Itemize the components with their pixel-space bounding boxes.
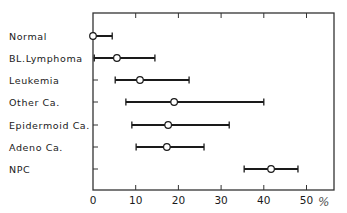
- x-tick-label: 50: [300, 194, 313, 206]
- mean-marker: [171, 99, 178, 106]
- x-tick-label: 40: [257, 194, 270, 206]
- x-tick-label: 20: [172, 194, 185, 206]
- category-label: Epidermoid Ca.: [9, 120, 90, 131]
- data-row: BL.Lymphoma: [9, 53, 155, 64]
- mean-marker: [114, 55, 121, 62]
- data-row: Epidermoid Ca.: [9, 120, 229, 131]
- x-tick-label: 30: [214, 194, 227, 206]
- x-tick-label: 10: [129, 194, 142, 206]
- data-row: Adeno Ca.: [9, 142, 204, 153]
- mean-marker: [90, 33, 97, 40]
- mean-marker: [164, 144, 171, 151]
- mean-marker: [268, 166, 275, 173]
- category-label: Other Ca.: [9, 97, 60, 108]
- data-row: NPC: [9, 164, 298, 175]
- category-label: Leukemia: [9, 75, 60, 86]
- chart: 01020304050 NormalBL.LymphomaLeukemiaOth…: [0, 0, 347, 213]
- data-row: Leukemia: [9, 75, 189, 86]
- data-row: Other Ca.: [9, 97, 264, 108]
- x-tick-label: 0: [90, 194, 97, 206]
- category-label: NPC: [9, 164, 30, 175]
- data-row: Normal: [9, 31, 112, 42]
- mean-marker: [165, 122, 172, 129]
- x-axis: 01020304050: [90, 13, 314, 206]
- category-label: Normal: [9, 31, 47, 42]
- x-axis-unit-label: %: [318, 195, 329, 209]
- data-rows: NormalBL.LymphomaLeukemiaOther Ca.Epider…: [9, 31, 298, 175]
- category-label: BL.Lymphoma: [9, 53, 83, 64]
- category-label: Adeno Ca.: [9, 142, 63, 153]
- mean-marker: [137, 77, 144, 84]
